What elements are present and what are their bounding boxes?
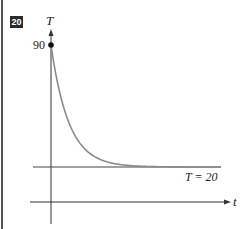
initial-value-label: 90 xyxy=(33,38,45,52)
asymptote-label: T = 20 xyxy=(185,170,218,184)
initial-point xyxy=(48,42,54,48)
y-axis-label: T xyxy=(46,13,54,28)
y-axis-arrow xyxy=(49,29,54,36)
x-axis-label: t xyxy=(233,194,237,209)
x-axis-arrow xyxy=(224,200,231,205)
chart: T t T = 20 90 xyxy=(0,0,242,229)
decay-curve xyxy=(51,45,221,167)
